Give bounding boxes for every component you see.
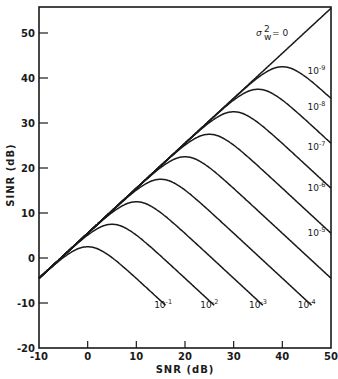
curve-10-1 <box>39 247 166 305</box>
x-tick-label: 20 <box>178 351 192 362</box>
x-axis-title: SNR (dB) <box>156 364 215 375</box>
y-tick-label: -20 <box>17 343 35 354</box>
curve-10-8 <box>39 89 331 278</box>
svg-text:σ: σ <box>256 28 262 38</box>
curves <box>39 8 331 305</box>
y-tick-label: 10 <box>21 208 35 219</box>
curve-label: 10-7 <box>307 140 325 152</box>
sigma-zero-label: σ 2 w = 0 <box>256 24 288 42</box>
x-tick-label: 10 <box>129 351 143 362</box>
y-tick-label: 20 <box>21 163 35 174</box>
y-tick-label: -10 <box>17 298 35 309</box>
svg-text:w: w <box>264 32 271 42</box>
x-tick-label: 0 <box>84 351 91 362</box>
svg-text:= 0: = 0 <box>272 28 288 38</box>
x-tick-label: 30 <box>227 351 241 362</box>
curve-10-6 <box>39 134 331 278</box>
x-tick-label: 50 <box>324 351 338 362</box>
plot-frame <box>39 7 331 348</box>
y-axis-ticks: -20-1001020304050 <box>17 28 48 354</box>
y-tick-label: 50 <box>21 28 35 39</box>
curve-10-3 <box>39 202 263 305</box>
x-axis-ticks: -1001020304050 <box>30 341 338 362</box>
curve-label: 10-6 <box>307 181 325 193</box>
curve-10-5 <box>39 157 331 278</box>
y-axis-title: SINR (dB) <box>5 143 16 206</box>
sinr-vs-snr-chart: -1001020304050 -20-1001020304050 10-910-… <box>0 0 338 379</box>
curve-label: 10-9 <box>307 64 325 76</box>
curve-label: 10-5 <box>307 226 325 238</box>
curve-label: 10-4 <box>298 298 316 310</box>
x-tick-label: 40 <box>275 351 289 362</box>
y-tick-label: 0 <box>28 253 35 264</box>
curve-label: 10-3 <box>249 298 267 310</box>
curve-label: 10-8 <box>307 100 325 112</box>
curve-10-7 <box>39 112 331 278</box>
curve-label: 10-2 <box>200 298 218 310</box>
y-tick-label: 30 <box>21 118 35 129</box>
curve-label: 10-1 <box>154 298 172 310</box>
y-tick-label: 40 <box>21 73 35 84</box>
